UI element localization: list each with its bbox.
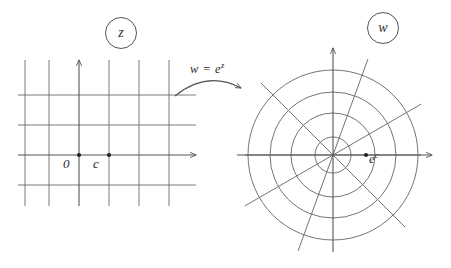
w-plane-exp-c-exponent: c: [375, 150, 379, 160]
mapping-arrow: [175, 81, 241, 96]
z-plane-tag: z: [105, 17, 137, 49]
exponential-map-figure: z w 0 c ec w = ez: [0, 0, 451, 268]
mapping-formula-exponent: z: [221, 60, 225, 70]
z-plane-point-c: [107, 153, 111, 157]
mapping-formula-label: w = ez: [190, 60, 225, 77]
w-plane-exp-c-label: ec: [369, 150, 379, 167]
z-plane-grid: [18, 60, 196, 206]
mapping-formula-base: w = e: [190, 62, 221, 76]
z-plane-point-origin: [77, 153, 81, 157]
z-plane-c-label: c: [93, 156, 99, 172]
w-plane-tag: w: [367, 12, 399, 44]
z-plane-tag-label: z: [118, 25, 123, 41]
z-plane-origin-label: 0: [63, 156, 70, 172]
w-plane-tag-label: w: [378, 20, 387, 36]
w-plane-point-exp-c: [364, 153, 368, 157]
